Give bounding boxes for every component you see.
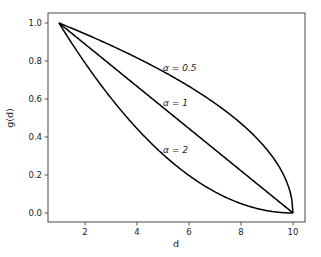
x-tick-label: 8 <box>238 227 243 237</box>
y-tick-label: 0.0 <box>28 208 42 218</box>
annotation-alpha-1: α = 1 <box>163 98 188 108</box>
x-tick-label: 4 <box>134 227 139 237</box>
y-tick-label: 0.2 <box>28 170 42 180</box>
series-line-1 <box>59 23 293 213</box>
x-axis-ticks: 246810 <box>82 222 298 237</box>
y-tick-label: 0.8 <box>28 56 42 66</box>
y-axis-label: g(d) <box>4 108 15 127</box>
annotation-alpha-2: α = 2 <box>163 145 188 155</box>
chart: 246810 0.00.20.40.60.81.0 d g(d) α = 0.5… <box>0 0 321 257</box>
x-tick-label: 2 <box>82 227 87 237</box>
y-tick-label: 1.0 <box>28 18 42 28</box>
x-tick-label: 10 <box>288 227 299 237</box>
x-axis-label: d <box>173 238 179 249</box>
y-tick-label: 0.4 <box>28 132 42 142</box>
plot-lines <box>59 23 293 213</box>
y-tick-label: 0.6 <box>28 94 42 104</box>
y-axis-ticks: 0.00.20.40.60.81.0 <box>28 18 48 218</box>
x-tick-label: 6 <box>186 227 191 237</box>
annotation-alpha-0-5: α = 0.5 <box>163 63 197 73</box>
